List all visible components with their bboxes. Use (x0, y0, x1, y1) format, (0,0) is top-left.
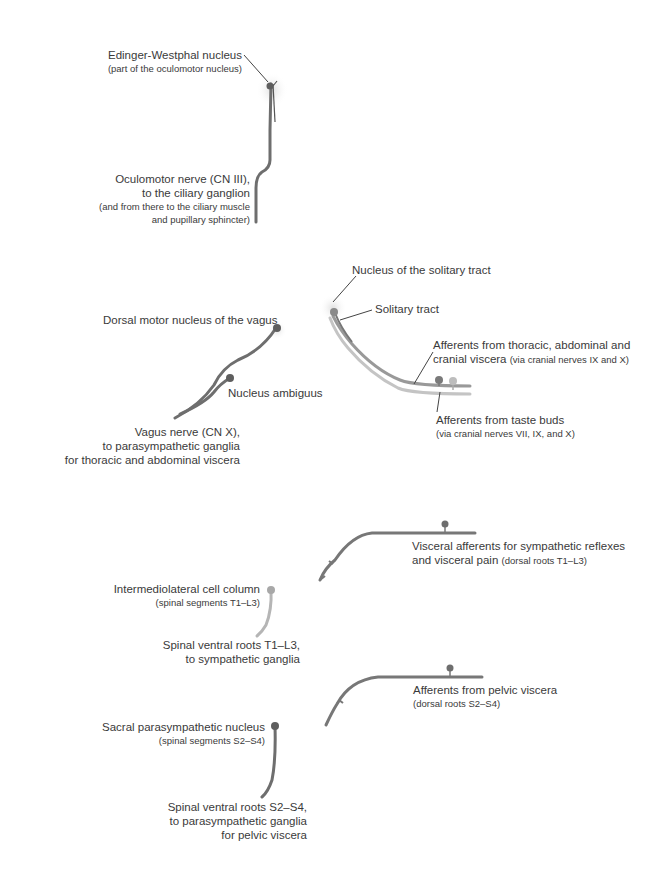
visceral-afferents-sympathetic-label: Visceral afferents for sympathetic refle… (412, 539, 625, 568)
solitary-tract-label: Solitary tract (375, 302, 439, 316)
pelvic-afferents-sub: (dorsal roots S2–S4) (413, 697, 557, 710)
nucleus-ambiguus-label: Nucleus ambiguus (228, 386, 323, 400)
sympathetic-roots-line-1: Spinal ventral roots T1–L3, (120, 638, 300, 652)
sympathetic-roots-line-2: to sympathetic ganglia (120, 652, 300, 666)
sacral-roots-label: Spinal ventral roots S2–S4, to parasympa… (120, 800, 307, 842)
taste-afferents-title: Afferents from taste buds (436, 413, 575, 427)
oculomotor-nerve-label: Oculomotor nerve (CN III), to the ciliar… (60, 172, 250, 226)
sacral-nucleus-title: Sacral parasympathetic nucleus (60, 720, 265, 734)
intermediolateral-column-sub: (spinal segments T1–L3) (80, 596, 260, 609)
visceral-afferents-sub: (via cranial nerves IX and X) (510, 354, 629, 365)
visceral-afferents-line-1: Afferents from thoracic, abdominal and (433, 338, 630, 352)
edinger-westphal-title: Edinger-Westphal nucleus (90, 48, 242, 62)
oculomotor-nerve-sub-2: and pupillary sphincter) (60, 213, 250, 226)
vagus-nerve-line-2: to parasympathetic ganglia (40, 439, 240, 453)
vagus-nerve-line-3: for thoracic and abdominal viscera (40, 453, 240, 467)
sympathetic-afferents-line-1: Visceral afferents for sympathetic refle… (412, 539, 625, 553)
oculomotor-nerve-sub-1: (and from there to the ciliary muscle (60, 200, 250, 213)
taste-afferents-label: Afferents from taste buds (via cranial n… (436, 413, 575, 440)
sympathetic-afferents-sub: (dorsal roots T1–L3) (502, 555, 587, 566)
sacral-roots-line-1: Spinal ventral roots S2–S4, (120, 800, 307, 814)
sacral-roots-line-3: for pelvic viscera (120, 828, 307, 842)
oculomotor-pathway (244, 55, 288, 222)
taste-afferents-sub: (via cranial nerves VII, IX, and X) (436, 427, 575, 440)
edinger-westphal-sub: (part of the oculomotor nucleus) (90, 62, 242, 75)
oculomotor-nerve-line-1: Oculomotor nerve (CN III), (60, 172, 250, 186)
sacral-nucleus-sub: (spinal segments S2–S4) (60, 734, 265, 747)
oculomotor-nerve-line-2: to the ciliary ganglion (60, 186, 250, 200)
vagus-pathway (175, 320, 287, 418)
visceral-afferents-line-2: cranial viscera (433, 353, 507, 365)
edinger-westphal-label: Edinger-Westphal nucleus (part of the oc… (90, 48, 242, 75)
dorsal-motor-nucleus-label: Dorsal motor nucleus of the vagus (103, 313, 278, 327)
visceral-afferents-label: Afferents from thoracic, abdominal and c… (433, 338, 630, 367)
solitary-nucleus-label: Nucleus of the solitary tract (352, 263, 491, 277)
sacral-roots-line-2: to parasympathetic ganglia (120, 814, 307, 828)
pelvic-afferents-title: Afferents from pelvic viscera (413, 683, 557, 697)
intermediolateral-column-label: Intermediolateral cell column (spinal se… (80, 582, 260, 609)
vagus-nerve-line-1: Vagus nerve (CN X), (40, 425, 240, 439)
intermediolateral-column-title: Intermediolateral cell column (80, 582, 260, 596)
sympathetic-roots-label: Spinal ventral roots T1–L3, to sympathet… (120, 638, 300, 666)
sacral-nucleus-label: Sacral parasympathetic nucleus (spinal s… (60, 720, 265, 747)
pelvic-afferents-label: Afferents from pelvic viscera (dorsal ro… (413, 683, 557, 710)
vagus-nerve-label: Vagus nerve (CN X), to parasympathetic g… (40, 425, 240, 467)
sympathetic-afferents-line-2: and visceral pain (412, 554, 498, 566)
